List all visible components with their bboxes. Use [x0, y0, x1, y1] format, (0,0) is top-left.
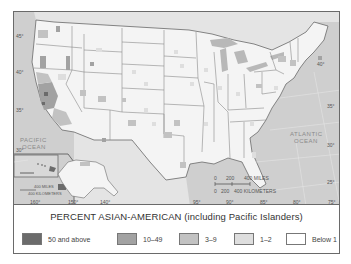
lat-label: 45° [16, 33, 24, 39]
alaska-scale-miles: 400 MILES [34, 184, 54, 189]
map-frame: PACIFIC OCEAN ATLANTIC OCEAN 45° 40° 35°… [13, 11, 340, 205]
lat-label-right: 35° [327, 103, 335, 109]
legend-label: 3–9 [205, 236, 217, 243]
lat-label: 35° [16, 107, 24, 113]
atlantic-ocean-label-1: ATLANTIC [290, 131, 323, 137]
legend-label: 1–2 [260, 236, 272, 243]
lat-label: 30° [16, 147, 24, 153]
legend-item-3-9: 3–9 [179, 231, 217, 247]
legend-title: PERCENT ASIAN-AMERICAN (including Pacifi… [14, 211, 339, 222]
legend: PERCENT ASIAN-AMERICAN (including Pacifi… [13, 205, 340, 254]
alaska-shade [80, 162, 90, 166]
alaska-scale-km: 400 KILOMETERS [28, 191, 62, 196]
legend-item-50-above: 50 and above [22, 231, 90, 247]
atlantic-ocean-label-2: OCEAN [294, 138, 318, 144]
us-map: PACIFIC OCEAN ATLANTIC OCEAN 45° 40° 35°… [14, 12, 340, 205]
legend-swatch [22, 233, 42, 245]
hawaii-inset [14, 155, 58, 177]
lat-label-right: 30° [327, 142, 335, 148]
legend-item-below-1: Below 1 [286, 231, 337, 247]
pacific-ocean-label-1: PACIFIC [20, 137, 47, 143]
scale-miles-0: 0 [214, 175, 217, 181]
legend-label: 10–49 [143, 236, 162, 243]
scale-miles-200: 200 [226, 175, 235, 181]
lat-label-right: 40° [317, 61, 325, 67]
lat-label: 40° [16, 69, 24, 75]
scale-km-0: 0 [214, 188, 217, 194]
legend-items: 50 and above 10–49 3–9 1–2 Below 1 [22, 231, 335, 247]
scale-km-400: 400 KILOMETERS [234, 188, 277, 194]
legend-swatch [234, 233, 254, 245]
pacific-ocean-label-2: OCEAN [22, 144, 46, 150]
legend-swatch [117, 233, 137, 245]
legend-swatch [179, 233, 199, 245]
legend-label: Below 1 [312, 236, 337, 243]
lat-label-right: 25° [327, 179, 335, 185]
legend-item-10-49: 10–49 [117, 231, 162, 247]
scale-miles-400: 400 MILES [244, 175, 269, 181]
legend-item-1-2: 1–2 [234, 231, 272, 247]
scale-km-200: 200 [221, 188, 230, 194]
legend-swatch [286, 233, 306, 245]
legend-label: 50 and above [48, 236, 90, 243]
